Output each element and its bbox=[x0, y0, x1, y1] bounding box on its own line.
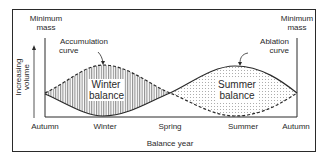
winter-balance-label: Winter balance bbox=[88, 79, 124, 101]
ablation-line2: curve bbox=[247, 46, 289, 55]
x-tick-summer: Summer bbox=[223, 122, 263, 131]
accumulation-line2: curve bbox=[55, 46, 113, 55]
min-mass-right-label: Minimum mass bbox=[276, 14, 318, 32]
accumulation-line1: Accumulation bbox=[55, 37, 113, 46]
y-axis-line2: volume bbox=[23, 54, 31, 100]
arrow-head-icon bbox=[32, 45, 36, 50]
ablation-line1: Ablation bbox=[247, 37, 289, 46]
x-tick-spring: Spring bbox=[152, 122, 188, 131]
x-tick-winter: Winter bbox=[87, 122, 123, 131]
min-mass-left-line1: Minimum bbox=[26, 14, 66, 23]
accumulation-curve-label: Accumulation curve bbox=[55, 37, 113, 55]
x-tick-autumn-end: Autumn bbox=[278, 122, 314, 131]
summer-balance-line1: Summer bbox=[217, 79, 257, 90]
ablation-curve-label: Ablation curve bbox=[247, 37, 289, 55]
min-mass-left-line2: mass bbox=[26, 23, 66, 32]
summer-balance-line2: balance bbox=[217, 90, 257, 101]
winter-balance-line2: balance bbox=[89, 90, 123, 101]
y-axis-label: Increasing volume bbox=[15, 54, 31, 100]
min-mass-left-label: Minimum mass bbox=[26, 14, 66, 32]
x-axis-title: Balance year bbox=[136, 139, 204, 148]
winter-balance-line1: Winter bbox=[89, 79, 123, 90]
min-mass-right-line1: Minimum bbox=[276, 14, 318, 23]
x-tick-autumn-start: Autumn bbox=[27, 122, 63, 131]
summer-balance-label: Summer balance bbox=[216, 79, 258, 101]
min-mass-right-line2: mass bbox=[276, 23, 318, 32]
